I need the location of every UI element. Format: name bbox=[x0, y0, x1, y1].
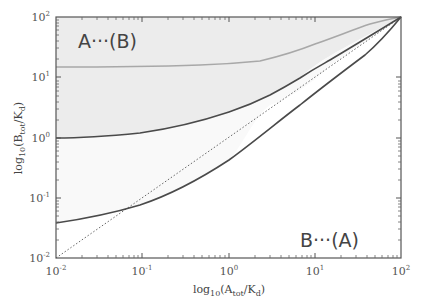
svg-text:100: 100 bbox=[220, 264, 238, 278]
svg-text:10-1: 10-1 bbox=[29, 191, 50, 205]
x-tick-labels: 10-2 10-1 100 101 102 bbox=[46, 264, 411, 278]
svg-text:10-2: 10-2 bbox=[46, 264, 67, 278]
svg-text:10-1: 10-1 bbox=[132, 264, 153, 278]
x-axis-title: log10(Atot/Kd) bbox=[193, 283, 265, 298]
svg-text:102: 102 bbox=[392, 264, 410, 278]
region-label-a-b: A···(B) bbox=[78, 30, 137, 52]
y-tick-labels: 10-2 10-1 100 101 102 bbox=[29, 10, 50, 265]
svg-text:102: 102 bbox=[32, 10, 50, 24]
svg-text:101: 101 bbox=[306, 264, 324, 278]
svg-text:10-2: 10-2 bbox=[29, 251, 50, 265]
region-label-b-a: B···(A) bbox=[300, 229, 359, 251]
chart: 10-2 10-1 100 101 102 10-2 10-1 100 101 … bbox=[0, 0, 421, 307]
y-axis-title: log10(Btot/Kd) bbox=[12, 102, 27, 174]
svg-text:100: 100 bbox=[32, 131, 50, 145]
svg-text:101: 101 bbox=[32, 70, 50, 84]
